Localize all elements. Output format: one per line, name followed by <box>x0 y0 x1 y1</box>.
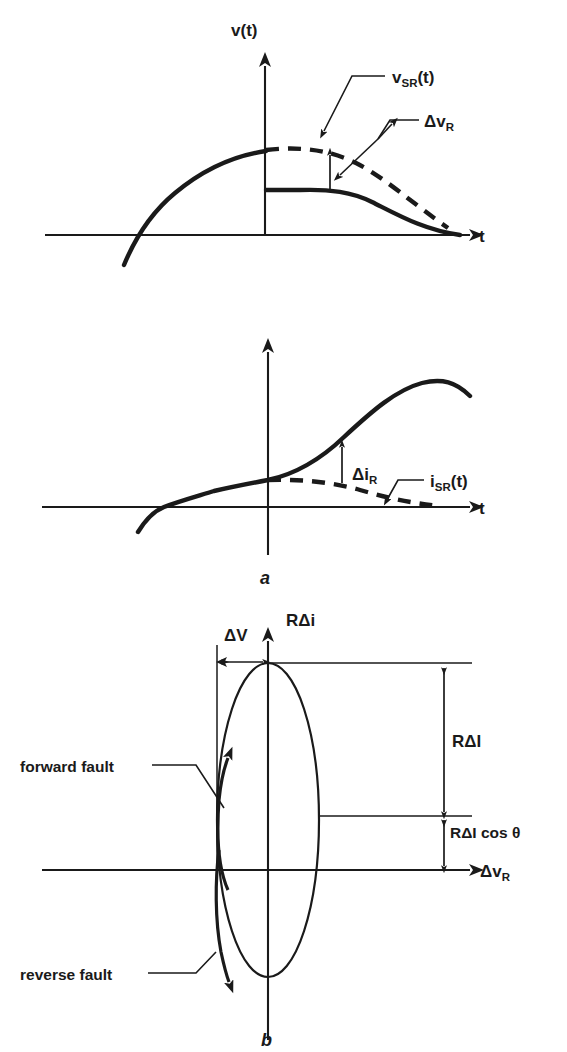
delta-v-label: ΔV <box>224 626 248 645</box>
phase-y-axis-label: RΔi <box>286 611 315 630</box>
current-solid-curve <box>138 381 470 532</box>
voltage-faulted-curve <box>266 190 460 235</box>
voltage-x-axis-label: t <box>479 227 485 246</box>
forward-fault-label: forward fault <box>20 758 114 775</box>
r-delta-i-label: RΔI <box>452 732 481 751</box>
panel-phase-plane: RΔi ΔvR ΔV RΔI <box>20 611 520 1050</box>
voltage-y-axis-label: v(t) <box>231 21 257 40</box>
delta-vr-arrow-up-right <box>378 124 392 139</box>
panel-current: t ΔiR iSR(t) a <box>42 352 485 588</box>
isr-label: iSR(t) <box>430 472 468 493</box>
technical-diagram-svg: v(t) t vSR(t) ΔvR <box>0 0 567 1052</box>
delta-ir-label: ΔiR <box>352 465 378 486</box>
phase-x-axis-label: ΔvR <box>480 862 511 883</box>
delta-vr-arrow-down-left <box>340 139 378 175</box>
current-x-axis-label: t <box>479 499 485 518</box>
panel-letter-b: b <box>261 1030 272 1050</box>
r-delta-i-cos-label: RΔI cos θ <box>450 824 520 841</box>
vsr-label: vSR(t) <box>392 68 434 89</box>
delta-vr-leader-line <box>378 120 419 139</box>
reverse-fault-label: reverse fault <box>20 966 112 983</box>
reverse-fault-leader-line <box>148 952 216 973</box>
isr-leader-line <box>388 480 424 498</box>
figure-root: v(t) t vSR(t) ΔvR <box>0 0 567 1052</box>
panel-voltage: v(t) t vSR(t) ΔvR <box>45 21 485 265</box>
forward-fault-leader-line <box>152 765 224 808</box>
voltage-solid-curve <box>124 151 266 265</box>
panel-letter-a: a <box>260 568 270 588</box>
vsr-leader-line <box>324 76 385 131</box>
delta-vr-label: ΔvR <box>424 112 455 133</box>
